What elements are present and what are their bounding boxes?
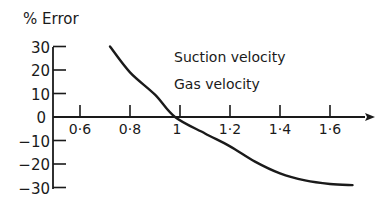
chart: % Error 3020100−10−20−30 0·60·811·21·41·… (0, 0, 383, 204)
annotation-gas-velocity: Gas velocity (174, 76, 260, 92)
x-tick-label: 1·2 (219, 121, 241, 137)
x-tick-label: 1·6 (319, 121, 341, 137)
x-tick-label: 0·8 (119, 121, 141, 137)
y-tick-label: 30 (31, 39, 50, 57)
error-curve (110, 47, 353, 186)
y-tick-label: −20 (18, 156, 50, 174)
x-axis-arrow-icon (365, 113, 375, 121)
y-ticks: 3020100−10−20−30 (18, 39, 66, 198)
x-tick-label: 1·4 (269, 121, 291, 137)
x-tick-label: 0·6 (69, 121, 91, 137)
x-tick-label: 1 (173, 121, 182, 137)
annotation-suction-velocity: Suction velocity (174, 49, 285, 65)
y-tick-label: 10 (31, 86, 50, 104)
y-tick-label: 0 (36, 109, 46, 127)
y-tick-label: −30 (18, 180, 50, 198)
y-axis-label: % Error (23, 10, 79, 28)
y-tick-label: 20 (31, 62, 50, 80)
y-tick-label: −10 (18, 133, 50, 151)
